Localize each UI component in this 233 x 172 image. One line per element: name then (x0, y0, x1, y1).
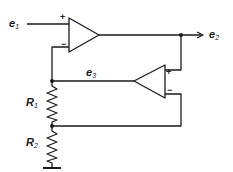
label-r2: R2 (26, 137, 38, 149)
divider-feedback-wire (52, 94, 181, 126)
label-r1: R1 (26, 97, 38, 109)
resistor-r1 (47, 81, 57, 126)
feedback-wire-plus (165, 35, 181, 70)
opamp2-plus-sign: + (166, 68, 171, 77)
label-e3: e3 (86, 67, 96, 79)
junction-output (179, 33, 183, 37)
junction-r1-r2 (50, 124, 54, 128)
label-e2: e2 (209, 29, 219, 41)
opamp1-plus-sign: + (60, 13, 65, 22)
opamp2-minus-sign: − (167, 86, 172, 95)
opamp-2 (134, 65, 165, 98)
opamp-1 (69, 18, 99, 52)
label-e1: e1 (9, 18, 19, 30)
junction-e3 (50, 79, 54, 83)
minus-input-wire (52, 47, 69, 81)
opamp1-minus-sign: − (61, 40, 66, 49)
resistor-r2 (47, 126, 57, 168)
